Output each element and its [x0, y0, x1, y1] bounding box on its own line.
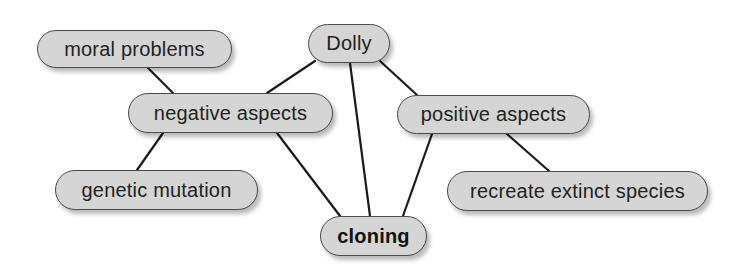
- node-dolly: Dolly: [308, 24, 390, 63]
- edge-moral-problems-negative-aspects: [148, 68, 173, 93]
- node-label: Dolly: [326, 32, 371, 55]
- node-label: genetic mutation: [82, 179, 232, 202]
- edge-dolly-cloning: [350, 63, 370, 216]
- node-genetic-mutation: genetic mutation: [55, 170, 258, 210]
- edge-positive-aspects-recreate-extinct-species: [507, 134, 549, 171]
- node-negative-aspects: negative aspects: [128, 93, 333, 133]
- node-positive-aspects: positive aspects: [397, 95, 590, 134]
- concept-map: moral problems Dolly negative aspects po…: [0, 0, 750, 274]
- edge-dolly-negative-aspects: [267, 61, 315, 93]
- node-label: moral problems: [64, 38, 205, 61]
- edge-dolly-positive-aspects: [380, 61, 417, 95]
- edge-negative-aspects-genetic-mutation: [137, 133, 163, 170]
- node-label: positive aspects: [421, 103, 567, 126]
- edge-negative-aspects-cloning: [277, 133, 340, 216]
- node-label: recreate extinct species: [470, 180, 685, 203]
- node-label: cloning: [337, 225, 410, 248]
- node-recreate-extinct-species: recreate extinct species: [447, 171, 708, 211]
- node-cloning: cloning: [320, 216, 427, 256]
- node-moral-problems: moral problems: [37, 30, 232, 68]
- node-label: negative aspects: [154, 102, 307, 125]
- edge-positive-aspects-cloning: [403, 134, 432, 216]
